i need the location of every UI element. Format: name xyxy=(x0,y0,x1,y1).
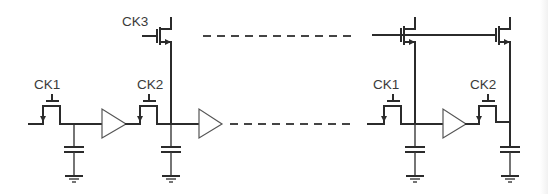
ground-icon xyxy=(502,176,518,182)
circuit-diagram: CK1 CK2 CK3 xyxy=(0,0,548,194)
switch-transistor-ck1-left: CK1 xyxy=(29,77,74,124)
capacitor-3 xyxy=(406,124,424,176)
ground-icon xyxy=(66,176,82,182)
ground-icon xyxy=(407,176,423,182)
label-ck2-left: CK2 xyxy=(137,77,163,92)
select-transistor-right-1 xyxy=(401,18,415,124)
switch-transistor-ck2-right: CK2 xyxy=(466,77,510,124)
label-ck3: CK3 xyxy=(122,14,148,29)
capacitor-2 xyxy=(162,124,180,176)
label-ck1-left: CK1 xyxy=(34,77,60,92)
capacitor-1 xyxy=(65,124,83,176)
buffer-1 xyxy=(102,109,126,138)
select-transistor-ck3: CK3 xyxy=(122,14,171,124)
buffer-3 xyxy=(443,109,466,138)
capacitor-4 xyxy=(501,147,519,176)
label-ck1-right: CK1 xyxy=(373,77,399,92)
switch-transistor-ck2-left: CK2 xyxy=(126,77,199,124)
switch-transistor-ck1-right: CK1 xyxy=(368,77,443,124)
select-transistor-right-2 xyxy=(496,18,510,147)
label-ck2-right: CK2 xyxy=(470,77,496,92)
buffer-2 xyxy=(199,109,222,138)
ground-icon xyxy=(163,176,179,182)
